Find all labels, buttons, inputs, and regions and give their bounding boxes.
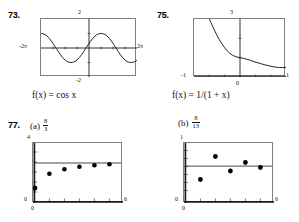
- data-point: [62, 167, 67, 172]
- answer-77a-tag: (a): [30, 121, 40, 131]
- chart-77a-ytick-top: 4: [27, 134, 30, 140]
- data-point: [243, 160, 248, 165]
- chart-77a-canvas: [33, 143, 123, 203]
- answer-77a-numerator: 8: [43, 118, 48, 125]
- chart-73-ytick-top: 2: [78, 9, 81, 15]
- caption-75: f(x) = 1/(1 + x): [172, 90, 230, 100]
- chart-75-curve: [209, 19, 286, 68]
- data-point: [92, 163, 97, 168]
- data-point: [213, 154, 218, 159]
- chart-73-canvas: [41, 19, 137, 77]
- chart-77b-ytick-zero: 0: [175, 196, 178, 202]
- answer-77b-fraction: 8 13: [192, 115, 201, 130]
- data-point: [47, 172, 52, 177]
- chart-75-xtick-right: 1: [286, 72, 289, 78]
- chart-77b-ytick-top: 1: [180, 134, 183, 140]
- caption-75-text: f(x) = 1/(1 + x): [172, 90, 230, 100]
- chart-75-reciprocal: [193, 18, 285, 76]
- chart-73-ytick-bottom: -2: [76, 77, 81, 83]
- chart-77b-xtick-zero: 0: [182, 205, 185, 211]
- answer-77b-numerator: 8: [193, 115, 198, 122]
- chart-75-ytick-top: 3: [230, 9, 233, 15]
- problem-73: 73.: [0, 0, 150, 111]
- answer-77a: (a) 8 3: [30, 119, 48, 134]
- chart-77b-scatter: [183, 142, 273, 202]
- data-point: [198, 177, 203, 182]
- worksheet-page: 73.: [0, 0, 299, 222]
- data-point: [228, 169, 233, 174]
- chart-77a-xtick-right: 6: [124, 196, 127, 202]
- data-point: [107, 162, 112, 167]
- chart-73-cosine: [40, 18, 136, 76]
- chart-77b-points: [198, 154, 263, 182]
- caption-73-text: f(x) = cos x: [32, 90, 76, 100]
- chart-73-xtick-left: -2π: [19, 43, 27, 49]
- chart-75-xtick-center: 0: [236, 80, 239, 86]
- chart-73-xtick-right: 2π: [137, 43, 143, 49]
- problem-75: 75.: [150, 0, 299, 111]
- chart-77b-canvas: [184, 143, 274, 203]
- caption-73: f(x) = cos x: [32, 90, 76, 100]
- chart-77b-xtick-right: 6: [275, 196, 278, 202]
- chart-75-xtick-left: -1: [181, 72, 186, 78]
- problem-77: 77. (a) 8 3 (b) 8 13: [0, 111, 299, 222]
- answer-77a-denominator: 3: [43, 125, 48, 133]
- answer-77b-tag: (b): [178, 118, 189, 128]
- chart-75-canvas: [194, 19, 286, 77]
- answer-77a-fraction: 8 3: [43, 118, 48, 133]
- answer-77b-denominator: 13: [192, 122, 201, 130]
- chart-77a-xtick-zero: 0: [31, 205, 34, 211]
- chart-77a-scatter: [32, 142, 122, 202]
- answer-77b: (b) 8 13: [178, 116, 200, 131]
- problem-number-75: 75.: [157, 10, 169, 20]
- problem-number-73: 73.: [8, 10, 20, 20]
- data-point: [33, 186, 37, 191]
- chart-77a-points: [33, 162, 112, 191]
- chart-77a-ytick-zero: 0: [24, 196, 27, 202]
- data-point: [77, 164, 82, 169]
- data-point: [258, 165, 263, 170]
- problem-number-77: 77.: [8, 120, 20, 130]
